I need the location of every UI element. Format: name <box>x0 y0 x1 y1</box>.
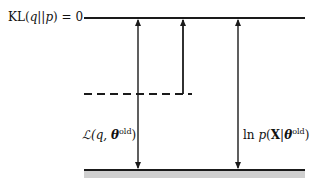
kl-zero-label: KL(q||p) = 0 <box>8 11 83 23</box>
kl-args: (q||p) <box>25 10 58 24</box>
arrowhead-down-icon <box>235 162 241 169</box>
arrowhead-up-icon <box>235 19 241 26</box>
kl-eq: = 0 <box>58 10 83 24</box>
lb-suffix: ) <box>132 128 137 142</box>
baseline-bar <box>84 170 305 178</box>
ll-theta: θ <box>284 128 292 142</box>
lb-sup: old <box>119 127 132 136</box>
arrowhead-up-icon <box>180 19 186 26</box>
lb-theta: θ <box>111 128 119 142</box>
ll-sup: old <box>292 127 305 136</box>
ll-X: X <box>271 128 280 142</box>
em-decomposition-diagram <box>0 0 322 185</box>
ll-suffix: ) <box>305 128 310 142</box>
arrowhead-down-icon <box>135 162 141 169</box>
log-likelihood-label: ln p(X|θold) <box>243 128 309 141</box>
arrowhead-up-icon <box>135 19 141 26</box>
lb-prefix: ℒ(q, <box>82 128 111 142</box>
kl-fn: KL <box>8 10 25 24</box>
lower-bound-label: ℒ(q, θold) <box>82 128 136 141</box>
